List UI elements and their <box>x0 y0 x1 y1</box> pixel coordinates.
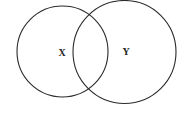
venn-diagram: X Y <box>0 0 192 114</box>
set-y-label: Y <box>122 46 130 57</box>
set-x-label: X <box>58 47 66 58</box>
